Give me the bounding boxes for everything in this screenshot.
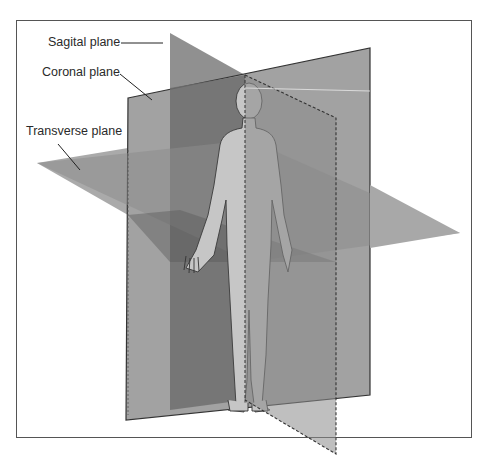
sagittal-plane-front [245, 75, 336, 454]
transverse-plane-label: Transverse plane [26, 124, 122, 138]
sagittal-plane-label: Sagital plane [48, 35, 120, 49]
coronal-plane-label: Coronal plane [42, 65, 120, 79]
transverse-plane-right-tip [370, 185, 460, 248]
